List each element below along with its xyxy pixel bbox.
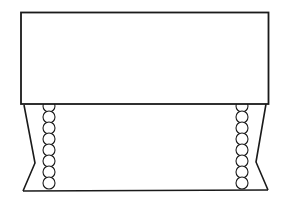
- bead: [43, 166, 55, 178]
- bead: [236, 177, 248, 189]
- bead: [236, 144, 248, 156]
- bead: [43, 111, 55, 123]
- base-right-edge: [256, 104, 268, 190]
- left-bead-chain: [43, 100, 55, 189]
- bead: [43, 133, 55, 145]
- base-frame: [23, 104, 268, 191]
- bead: [43, 122, 55, 134]
- right-bead-chain: [236, 100, 248, 189]
- line-drawing: [0, 0, 287, 214]
- bead: [43, 155, 55, 167]
- top-panel: [21, 13, 269, 105]
- bead: [236, 111, 248, 123]
- bead: [43, 144, 55, 156]
- diagram-canvas: [0, 0, 287, 214]
- base-bottom-edge: [23, 190, 268, 191]
- base-left-edge: [23, 105, 35, 191]
- bead: [236, 122, 248, 134]
- bead: [43, 177, 55, 189]
- bead: [236, 133, 248, 145]
- bead: [236, 155, 248, 167]
- bead: [236, 166, 248, 178]
